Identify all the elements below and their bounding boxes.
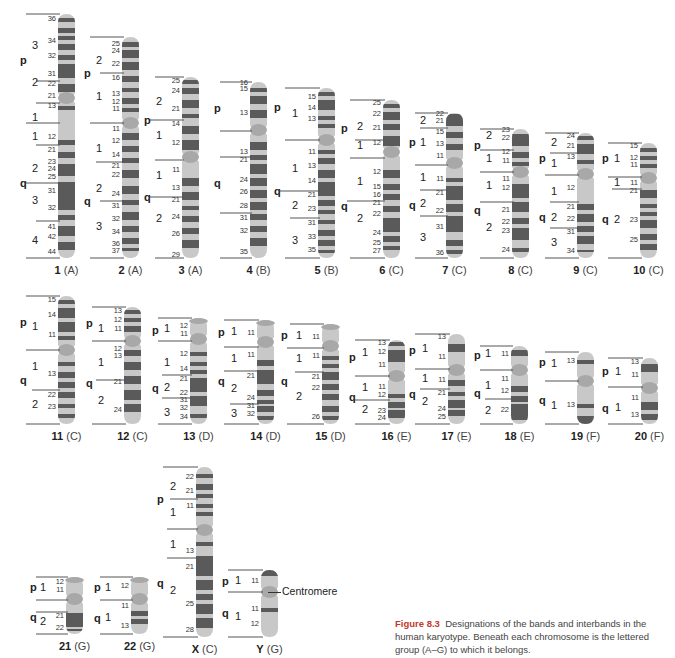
satellite-icon: [65, 577, 84, 583]
dark-band: [250, 96, 267, 104]
dark-band: [250, 238, 267, 246]
arm-label-q: q: [30, 611, 37, 623]
region-number: 1: [420, 171, 426, 183]
chromosome-number: 15: [315, 430, 327, 442]
region-number: 2: [486, 129, 492, 141]
centromere-icon: [250, 124, 267, 136]
chromosome-group: (F): [647, 430, 664, 442]
chromosome-label: 1 (A): [37, 264, 97, 276]
chromosome-number: 12: [117, 430, 129, 442]
band-number: 22: [48, 79, 56, 88]
band-number: 25: [438, 412, 446, 421]
band-number: 21: [373, 123, 381, 132]
band-number: 11: [114, 324, 122, 333]
chromosome-label: 13 (D): [169, 430, 229, 442]
chromosome-label: 3 (A): [161, 264, 221, 276]
dark-band: [122, 212, 139, 220]
dark-band: [190, 362, 207, 366]
region-number: 1: [296, 329, 302, 341]
dark-band: [388, 410, 405, 418]
dark-band: [446, 250, 463, 254]
dark-band: [512, 184, 529, 198]
band-number: 21: [373, 198, 381, 207]
arm-label-q: q: [539, 394, 546, 406]
band-number: 24: [114, 405, 122, 414]
dark-band: [182, 178, 199, 186]
arm-label-q: q: [274, 185, 281, 197]
dark-band: [640, 204, 657, 208]
band-number: 11: [502, 174, 510, 183]
chromosome-group: (D): [262, 430, 280, 442]
chromosome-number: 10: [633, 264, 645, 276]
arm-label-q: q: [409, 199, 416, 211]
region-number: 1: [231, 325, 237, 337]
chromosome-group: (A): [185, 264, 203, 276]
band-number: 25: [48, 172, 56, 181]
dark-band: [577, 416, 594, 424]
band-number: 12: [373, 167, 381, 176]
centromere-icon: [196, 524, 213, 536]
dark-band: [448, 380, 465, 386]
band-number: 11: [438, 352, 446, 361]
dark-band: [58, 215, 75, 220]
dark-band: [318, 100, 335, 110]
region-number: 2: [170, 480, 176, 492]
band-number: 33: [308, 232, 316, 241]
dark-band: [257, 416, 274, 420]
region-number: 1: [296, 352, 302, 364]
chromosome-group: (B): [321, 264, 339, 276]
region-number: 1: [614, 176, 620, 188]
band-number: 21: [48, 91, 56, 100]
region-number: 2: [485, 404, 491, 416]
band-number: 25: [172, 76, 180, 85]
dark-band: [58, 84, 75, 92]
centromere-icon: [383, 146, 400, 158]
arm-label-p: p: [409, 136, 416, 148]
region-number: 1: [32, 111, 38, 123]
chromosome-label: 16 (E): [367, 430, 427, 442]
centromere-icon: [122, 117, 139, 129]
region-number: 1: [156, 129, 162, 141]
band-number: 11: [312, 351, 320, 360]
dark-band: [66, 613, 83, 627]
chromosome-group: (E): [517, 430, 535, 442]
region-number: 1: [422, 342, 428, 354]
chromosome-number: 14: [250, 430, 262, 442]
chromosome-number: 19: [571, 430, 583, 442]
band-number: 15: [240, 84, 248, 93]
region-number: 3: [96, 220, 102, 232]
dark-band: [640, 212, 657, 216]
chromosome-group: (C): [385, 264, 403, 276]
band-number: 11: [247, 350, 255, 359]
dark-band: [122, 88, 139, 92]
dark-band: [257, 400, 274, 404]
band-number: 21: [308, 190, 316, 199]
dark-band: [250, 142, 267, 150]
band-number: 31: [112, 201, 120, 210]
arm-label-p: p: [86, 317, 93, 329]
dark-band: [322, 384, 339, 390]
region-number: 2: [486, 221, 492, 233]
band-number: 34: [112, 227, 120, 236]
band-number: 21: [436, 116, 444, 125]
centromere-icon: [124, 335, 141, 347]
dark-band: [640, 164, 657, 168]
dark-band: [196, 494, 213, 498]
dark-band: [122, 238, 139, 244]
dark-band: [58, 44, 75, 50]
band-number: 22: [373, 109, 381, 118]
arm-label-p: p: [214, 102, 221, 114]
dark-band: [250, 190, 267, 198]
band-number: 11: [501, 349, 509, 358]
arm-label-q: q: [341, 200, 348, 212]
band-number: 21: [240, 155, 248, 164]
band-number: 13: [378, 338, 386, 347]
chromosome-group: (C): [63, 430, 81, 442]
band-number: 13: [48, 369, 56, 378]
dark-band: [640, 244, 657, 250]
dark-band: [122, 158, 139, 163]
dark-band: [58, 414, 75, 418]
dark-band: [190, 378, 207, 392]
dark-band: [250, 88, 267, 92]
dark-band: [322, 416, 339, 420]
